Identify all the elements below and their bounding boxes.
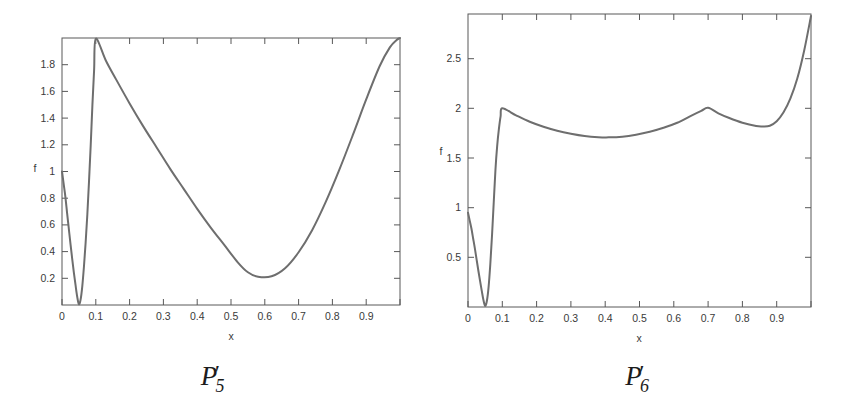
y-ticklabel: 1: [49, 165, 55, 177]
y-ticklabel: 1.8: [40, 58, 55, 70]
x-axis-label-p6: x: [636, 332, 642, 344]
figure-two-panel-plots: 0.2 0.4 0.6 0.8 1 1.2 1.4 1.6 1.8 f 0 0.…: [0, 0, 849, 403]
x-ticklabel: 0.1: [495, 312, 510, 324]
x-ticklabel: 0.2: [122, 310, 137, 322]
x-ticklabel: 0.7: [291, 310, 306, 322]
y-ticklabel: 1.5: [446, 152, 461, 164]
data-curve-p6: [468, 16, 811, 306]
x-ticklabel: 0.8: [325, 310, 340, 322]
y-ticklabel: 1.4: [40, 112, 55, 124]
x-ticklabel: 0.1: [88, 310, 103, 322]
x-ticklabel: 0.4: [190, 310, 205, 322]
x-ticklabel: 0.3: [156, 310, 171, 322]
x-ticklabel: 0.9: [769, 312, 784, 324]
x-ticklabel: 0.8: [735, 312, 750, 324]
plot-frame-p6: [468, 14, 811, 307]
plot-p6: 0.5 1 1.5 2 2.5 f 0 0.1 0.2 0.3 0.4 0.5 …: [425, 0, 849, 360]
y-axis-label-p6: f: [440, 145, 443, 157]
x-ticklabel: 0.4: [598, 312, 613, 324]
x-ticklabel: 0: [59, 310, 65, 322]
x-ticks-p6: [468, 301, 811, 307]
x-ticklabel: 0.7: [701, 312, 716, 324]
x-ticks-p5: [62, 299, 400, 305]
caption-p5: P′5: [0, 361, 425, 395]
caption-p6: P′6: [425, 361, 849, 395]
plot-frame-p5: [62, 38, 400, 305]
y-ticklabel: 2: [455, 102, 461, 114]
x-ticklabel: 0: [465, 312, 471, 324]
panel-p6: 0.5 1 1.5 2 2.5 f 0 0.1 0.2 0.3 0.4 0.5 …: [425, 0, 849, 403]
x-ticklabel: 0.2: [529, 312, 544, 324]
x-ticklabel: 0.3: [564, 312, 579, 324]
x-ticklabel: 0.6: [666, 312, 681, 324]
y-ticklabel: 1: [455, 201, 461, 213]
x-axis-label-p5: x: [228, 330, 234, 342]
y-ticks-right-p5: [394, 65, 400, 279]
y-ticks-right-p6: [805, 59, 811, 258]
panel-p5: 0.2 0.4 0.6 0.8 1 1.2 1.4 1.6 1.8 f 0 0.…: [0, 0, 425, 403]
y-ticklabel: 0.8: [40, 192, 55, 204]
x-ticks-top-p5: [96, 38, 366, 44]
y-ticklabel: 2.5: [446, 52, 461, 64]
y-ticklabel: 1.6: [40, 85, 55, 97]
x-ticklabel: 0.5: [632, 312, 647, 324]
x-ticklabel: 0.5: [224, 310, 239, 322]
x-ticklabel: 0.6: [257, 310, 272, 322]
caption-base: P: [625, 361, 642, 391]
y-axis-label-p5: f: [34, 162, 37, 174]
x-ticks-top-p6: [502, 14, 776, 20]
y-ticklabel: 0.6: [40, 218, 55, 230]
x-ticklabel: 0.9: [359, 310, 374, 322]
y-ticklabel: 0.2: [40, 272, 55, 284]
data-curve-p5: [62, 38, 400, 304]
caption-base: P: [201, 361, 218, 391]
y-ticklabel: 1.2: [40, 138, 55, 150]
plot-p5: 0.2 0.4 0.6 0.8 1 1.2 1.4 1.6 1.8 f 0 0.…: [0, 0, 425, 360]
y-ticklabel: 0.5: [446, 251, 461, 263]
y-ticklabel: 0.4: [40, 245, 55, 257]
